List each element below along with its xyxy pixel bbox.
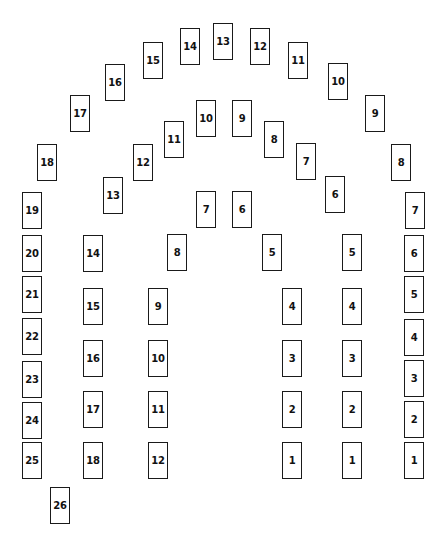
card-outer-9: 9 bbox=[365, 95, 385, 132]
card-outer-15: 15 bbox=[143, 42, 163, 79]
card-middle-6: 6 bbox=[325, 176, 345, 213]
card-middle-13: 13 bbox=[103, 177, 123, 214]
card-middle-16: 16 bbox=[83, 340, 103, 377]
card-inner-5: 5 bbox=[262, 234, 282, 271]
card-outer-11: 11 bbox=[288, 42, 308, 79]
card-outer-22: 22 bbox=[22, 318, 42, 355]
card-middle-11: 11 bbox=[164, 121, 184, 158]
card-middle-3: 3 bbox=[342, 340, 362, 377]
card-outer-17: 17 bbox=[70, 95, 90, 132]
card-inner-1: 1 bbox=[282, 442, 302, 479]
card-middle-15: 15 bbox=[83, 288, 103, 325]
card-outer-14: 14 bbox=[180, 28, 200, 65]
card-inner-4: 4 bbox=[282, 288, 302, 325]
card-outer-10: 10 bbox=[328, 63, 348, 100]
card-outer-5: 5 bbox=[404, 276, 424, 313]
card-outer-25: 25 bbox=[22, 442, 42, 479]
card-middle-7: 7 bbox=[296, 143, 316, 180]
card-outer-19: 19 bbox=[22, 192, 42, 229]
card-outer-1: 1 bbox=[404, 442, 424, 479]
card-outer-4: 4 bbox=[404, 319, 424, 356]
card-inner-7: 7 bbox=[196, 191, 216, 228]
card-outer-3: 3 bbox=[404, 360, 424, 397]
card-outer-20: 20 bbox=[22, 235, 42, 272]
card-inner-9: 9 bbox=[148, 288, 168, 325]
card-middle-10: 10 bbox=[196, 100, 216, 137]
card-inner-3: 3 bbox=[282, 340, 302, 377]
card-middle-14: 14 bbox=[83, 235, 103, 272]
card-outer-2: 2 bbox=[404, 401, 424, 438]
card-middle-2: 2 bbox=[342, 391, 362, 428]
card-middle-9: 9 bbox=[232, 100, 252, 137]
card-inner-8: 8 bbox=[167, 234, 187, 271]
card-middle-17: 17 bbox=[83, 391, 103, 428]
card-outer-6: 6 bbox=[404, 235, 424, 272]
card-outer-23: 23 bbox=[22, 361, 42, 398]
card-inner-11: 11 bbox=[148, 391, 168, 428]
card-inner-6: 6 bbox=[232, 191, 252, 228]
card-middle-18: 18 bbox=[83, 442, 103, 479]
card-middle-1: 1 bbox=[342, 442, 362, 479]
card-outer-21: 21 bbox=[22, 276, 42, 313]
card-outer-16: 16 bbox=[105, 64, 125, 101]
card-middle-8: 8 bbox=[264, 121, 284, 158]
card-middle-5: 5 bbox=[342, 234, 362, 271]
card-outer-26: 26 bbox=[50, 487, 70, 524]
card-outer-24: 24 bbox=[22, 402, 42, 439]
card-outer-8: 8 bbox=[391, 144, 411, 181]
card-outer-12: 12 bbox=[250, 28, 270, 65]
card-outer-13: 13 bbox=[213, 23, 233, 60]
card-middle-12: 12 bbox=[133, 144, 153, 181]
card-inner-12: 12 bbox=[148, 442, 168, 479]
card-layout-diagram: 1234567891011121314151617181920212223242… bbox=[0, 0, 446, 542]
card-inner-10: 10 bbox=[148, 340, 168, 377]
card-middle-4: 4 bbox=[342, 288, 362, 325]
card-inner-2: 2 bbox=[282, 391, 302, 428]
card-outer-18: 18 bbox=[37, 144, 57, 181]
card-outer-7: 7 bbox=[405, 192, 425, 229]
